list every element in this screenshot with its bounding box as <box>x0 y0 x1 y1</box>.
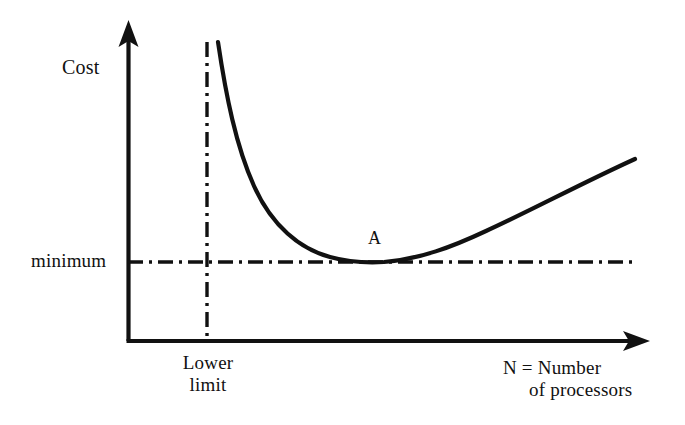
cost-vs-processors-figure: Cost minimum Lowerlimit N = Numberof pro… <box>0 0 685 425</box>
x-axis-label: N = Numberof processors <box>503 357 632 402</box>
minimum-value-label: minimum <box>31 250 106 272</box>
y-axis-label: Cost <box>62 56 99 80</box>
lower-limit-label: Lowerlimit <box>160 352 256 397</box>
x-axis-label-line2: of processors <box>503 379 632 401</box>
x-axis-label-line1-text: N = Number <box>503 357 601 378</box>
point-a-annotation: A <box>368 228 381 249</box>
lower-limit-label-line2: limit <box>190 374 227 395</box>
lower-limit-label-line1: Lower <box>183 352 234 373</box>
x-axis-label-line1: N = Number <box>503 357 601 378</box>
